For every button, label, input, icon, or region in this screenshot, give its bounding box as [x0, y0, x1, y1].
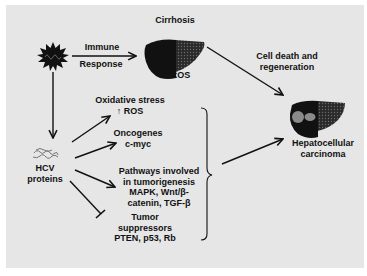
cell-death-label: Cell death and regeneration	[256, 51, 318, 72]
effect-tumor-suppressors: Tumor suppressors PTEN, p53, Rb	[114, 212, 176, 244]
effect-oxidative-stress: Oxidative stress ↑ ROS	[95, 95, 165, 116]
oxidative-stress-arrow	[72, 116, 110, 142]
brace-to-hcc-arrow	[222, 139, 283, 164]
grouping-brace	[201, 108, 212, 240]
hcc-label: Hepatocellular carcinoma	[292, 138, 354, 159]
hcv-proteins-label: HCV proteins	[27, 163, 63, 184]
title-cirrhosis: Cirrhosis	[155, 15, 195, 26]
response-label: Response	[79, 59, 122, 70]
protein-structure-icon	[33, 149, 58, 159]
tumor-suppressor-inhibit-line	[70, 181, 101, 214]
effect-oncogenes: Oncogenes c-myc	[113, 128, 162, 149]
inhibition-bar-icon	[96, 210, 105, 218]
hcv-virus-icon	[37, 42, 69, 71]
immune-label: Immune	[85, 42, 120, 53]
tumor-liver-icon	[290, 101, 345, 138]
effect-pathways: Pathways involved in tumorigenesis MAPK,…	[119, 166, 200, 208]
cirrhosis-ros-label: ↑ ROS	[164, 70, 191, 81]
oncogenes-arrow	[75, 143, 116, 158]
pathways-arrow	[75, 170, 115, 187]
